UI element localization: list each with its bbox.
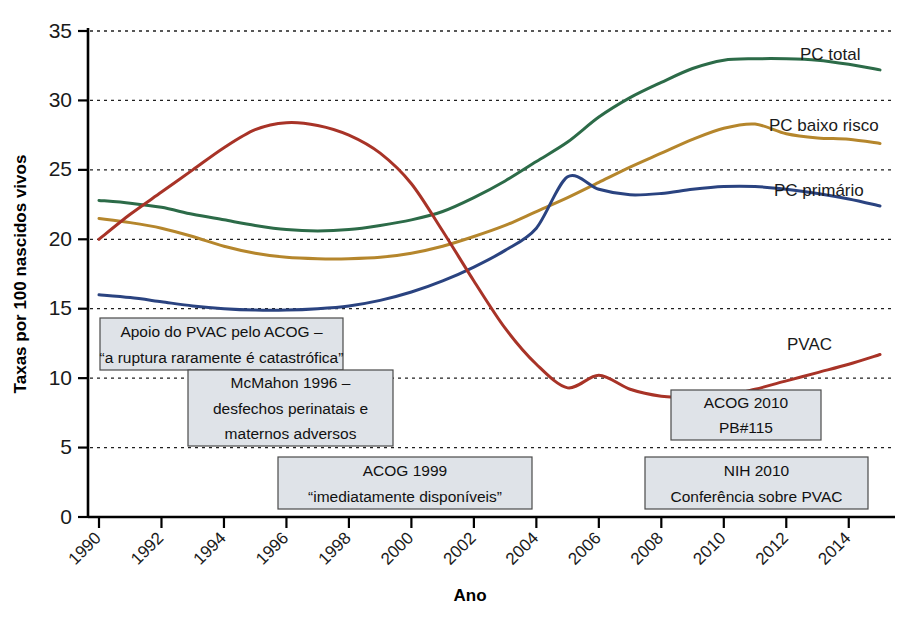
series-label-pc-baixo-risco: PC baixo risco — [769, 116, 879, 135]
series-label-pc-total: PC total — [800, 45, 860, 64]
annot-acog-pvac: Apoio do PVAC pelo ACOG –“a ruptura rara… — [100, 318, 344, 370]
x-tick-label-1992: 1992 — [127, 528, 167, 568]
x-axis-title: Ano — [453, 586, 486, 605]
x-tick-label-2004: 2004 — [502, 528, 542, 568]
x-tick-label-2006: 2006 — [564, 528, 604, 568]
series-line-pc-total — [99, 59, 880, 231]
y-tick-label-30: 30 — [49, 88, 72, 111]
x-axis-tick-labels: 1990199219941996199820002002200420062008… — [65, 528, 855, 568]
line-chart: 05101520253035 1990199219941996199820002… — [0, 0, 912, 617]
annot-acog-1999: ACOG 1999“imediatamente disponíveis” — [278, 457, 532, 509]
series-inline-labels: PC totalPC baixo riscoPC primárioPVAC — [769, 45, 879, 354]
annot-acog-2010-line-1: ACOG 2010 — [704, 394, 789, 411]
annot-nih-2010-line-2: Conferência sobre PVAC — [670, 488, 842, 505]
series-label-pc-prim-rio: PC primário — [774, 181, 864, 200]
chart-figure: 05101520253035 1990199219941996199820002… — [0, 0, 912, 617]
annot-nih-2010: NIH 2010Conferência sobre PVAC — [645, 457, 868, 509]
x-tick-label-2014: 2014 — [814, 528, 854, 568]
y-tick-label-15: 15 — [49, 296, 72, 319]
y-axis-tick-labels: 05101520253035 — [49, 19, 72, 528]
x-tick-label-2012: 2012 — [752, 528, 792, 568]
annotation-boxes: Apoio do PVAC pelo ACOG –“a ruptura rara… — [100, 318, 868, 509]
annot-mcmahon-1996: McMahon 1996 –desfechos perinatais emate… — [188, 370, 393, 446]
axis-ticks — [78, 31, 849, 528]
y-axis-title: Taxas por 100 nascidos vivos — [11, 155, 30, 394]
series-line-pc-baixo-risco — [99, 124, 880, 259]
x-tick-label-2010: 2010 — [689, 528, 729, 568]
x-tick-label-1996: 1996 — [252, 528, 292, 568]
x-tick-label-2002: 2002 — [440, 528, 480, 568]
series-label-pvac: PVAC — [787, 335, 832, 354]
y-tick-label-5: 5 — [60, 435, 72, 458]
y-tick-label-0: 0 — [60, 505, 72, 528]
y-tick-label-35: 35 — [49, 19, 72, 42]
x-tick-label-1994: 1994 — [190, 528, 230, 568]
annot-mcmahon-1996-line-1: McMahon 1996 – — [231, 374, 351, 391]
annot-acog-2010: ACOG 2010PB#115 — [671, 390, 821, 440]
x-tick-label-1990: 1990 — [65, 528, 105, 568]
annot-acog-1999-line-2: “imediatamente disponíveis” — [308, 488, 502, 505]
annot-acog-pvac-line-2: “a ruptura raramente é catastrófica” — [100, 349, 344, 366]
y-tick-label-20: 20 — [49, 227, 72, 250]
annot-acog-2010-line-2: PB#115 — [719, 419, 773, 436]
y-tick-label-25: 25 — [49, 157, 72, 180]
annot-acog-1999-line-1: ACOG 1999 — [363, 462, 447, 479]
x-tick-label-1998: 1998 — [315, 528, 355, 568]
x-tick-label-2008: 2008 — [627, 528, 667, 568]
y-tick-label-10: 10 — [49, 366, 72, 389]
annot-acog-pvac-line-1: Apoio do PVAC pelo ACOG – — [120, 323, 323, 340]
x-tick-label-2000: 2000 — [377, 528, 417, 568]
annot-mcmahon-1996-line-2: desfechos perinatais e — [213, 400, 368, 417]
annot-mcmahon-1996-line-3: maternos adversos — [225, 425, 357, 442]
annot-nih-2010-line-1: NIH 2010 — [724, 462, 790, 479]
